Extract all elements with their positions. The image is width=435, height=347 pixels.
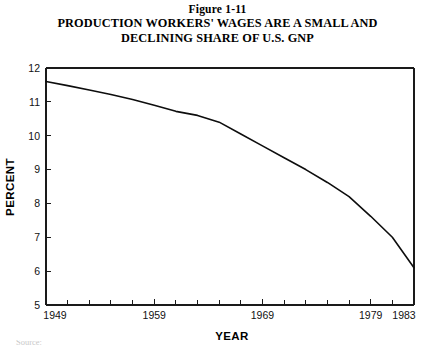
source-note: Source: xyxy=(0,340,435,347)
y-axis-tick-labels: 56789101112 xyxy=(28,62,40,311)
figure-header: Figure 1-11 PRODUCTION WORKERS' WAGES AR… xyxy=(0,0,435,45)
line-chart: 56789101112 19491959196919791983 PERCENT… xyxy=(0,52,435,347)
x-tick-label-1949: 1949 xyxy=(43,309,67,321)
y-tick-label-11: 11 xyxy=(29,96,40,108)
x-tick-label-1983: 1983 xyxy=(392,309,416,321)
figure-title-line-1: PRODUCTION WORKERS' WAGES ARE A SMALL AN… xyxy=(0,16,435,31)
y-tick-label-10: 10 xyxy=(28,130,40,142)
chart-container: 56789101112 19491959196919791983 PERCENT… xyxy=(0,52,435,347)
y-tick-label-9: 9 xyxy=(34,163,40,175)
x-tick-label-1979: 1979 xyxy=(359,309,383,321)
figure-number: Figure 1-11 xyxy=(0,3,435,16)
plot-frame xyxy=(46,68,414,305)
y-tick-label-7: 7 xyxy=(34,231,40,243)
data-series-line xyxy=(46,82,414,268)
y-tick-label-6: 6 xyxy=(34,265,40,277)
y-axis-title: PERCENT xyxy=(4,158,16,216)
x-axis-ticks xyxy=(46,299,414,305)
x-tick-label-1959: 1959 xyxy=(143,309,167,321)
source-strip: Source: xyxy=(0,340,435,347)
y-tick-label-12: 12 xyxy=(28,62,40,74)
x-axis-tick-labels: 19491959196919791983 xyxy=(43,309,416,321)
y-axis-ticks xyxy=(46,68,51,305)
y-tick-label-8: 8 xyxy=(34,197,40,209)
x-tick-label-1969: 1969 xyxy=(251,309,275,321)
y-tick-label-5: 5 xyxy=(34,299,40,311)
figure-title-line-2: DECLINING SHARE OF U.S. GNP xyxy=(0,31,435,46)
